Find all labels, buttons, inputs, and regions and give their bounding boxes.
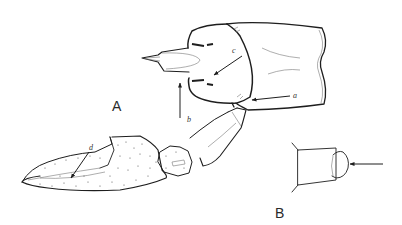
carapace-drawing bbox=[142, 23, 326, 110]
panel-label-a: A bbox=[112, 98, 122, 114]
arrow-d bbox=[71, 152, 89, 178]
panel-label-b: B bbox=[275, 205, 284, 221]
panel-b-segment-drawing bbox=[292, 143, 348, 192]
annotation-label-a: a bbox=[293, 91, 297, 100]
annotation-label-d: d bbox=[89, 143, 94, 152]
arrow-c bbox=[214, 56, 242, 75]
arrow-a bbox=[252, 96, 290, 100]
annotation-label-c: c bbox=[232, 46, 236, 55]
annotation-label-b: b bbox=[187, 115, 191, 124]
cheliped-drawing bbox=[22, 108, 246, 191]
anatomical-figure: A B a b c d bbox=[0, 0, 402, 225]
